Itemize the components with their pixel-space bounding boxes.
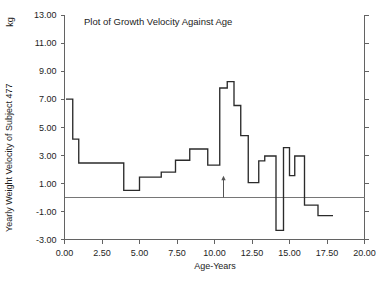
plot-title: Plot of Growth Velocity Against Age [84, 16, 232, 27]
x-tick-label: 2.50 [93, 248, 111, 258]
growth-velocity-chart: Yearly Weight Velocity of Subject 477 kg… [0, 0, 378, 282]
x-axis-tick-labels: 0.002.505.007.5010.0012.5015.0017.5020.0… [56, 248, 376, 258]
x-tick-label: 20.00 [353, 248, 376, 258]
y-tick-label: 13.00 [34, 10, 57, 20]
x-tick-label: 10.00 [203, 248, 226, 258]
y-axis-ticks [61, 15, 369, 240]
x-tick-label: 17.50 [316, 248, 339, 258]
y-tick-label: 3.00 [39, 151, 57, 161]
annotation-arrow-head [221, 176, 225, 181]
growth-velocity-step-line [66, 82, 333, 231]
x-tick-label: 0.00 [56, 248, 74, 258]
x-tick-label: 12.50 [241, 248, 264, 258]
y-tick-label: -3.00 [36, 235, 57, 245]
x-tick-label: 5.00 [131, 248, 149, 258]
annotation-arrow [221, 176, 225, 198]
y-axis-unit-label: kg [5, 17, 15, 27]
y-tick-label: -1.00 [36, 207, 57, 217]
x-tick-label: 7.50 [168, 248, 186, 258]
x-tick-label: 15.00 [278, 248, 301, 258]
growth-velocity-figure: Yearly Weight Velocity of Subject 477 kg… [0, 0, 378, 282]
y-tick-label: 11.00 [35, 38, 57, 48]
y-axis-tick-labels: -3.00-1.001.003.005.007.009.0011.0013.00 [34, 10, 57, 245]
y-tick-label: 9.00 [39, 66, 57, 76]
y-tick-label: 5.00 [39, 123, 57, 133]
x-axis-ticks [65, 240, 365, 244]
x-axis-title: Age-Years [194, 261, 236, 271]
y-axis-title: Yearly Weight Velocity of Subject 477 [4, 83, 14, 232]
y-tick-label: 1.00 [39, 179, 57, 189]
y-tick-label: 7.00 [39, 94, 57, 104]
